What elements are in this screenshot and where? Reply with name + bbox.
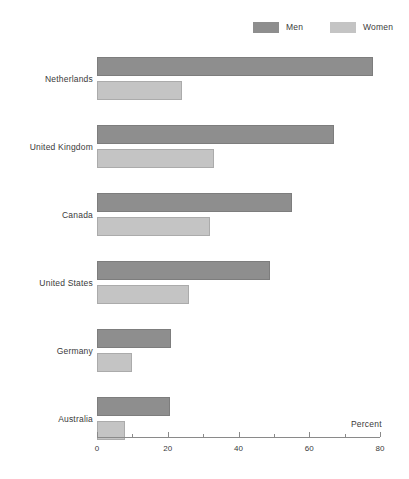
category-group: Netherlands (0, 57, 409, 100)
bar-women (97, 285, 189, 304)
category-group: Canada (0, 193, 409, 236)
category-group: United Kingdom (0, 125, 409, 168)
bar-women (97, 421, 125, 440)
bar-men (97, 193, 292, 212)
category-label: Australia (0, 414, 93, 424)
bar-women (97, 81, 182, 100)
bar-chart: Men Women NetherlandsUnited KingdomCanad… (0, 0, 409, 479)
category-label: Netherlands (0, 74, 93, 84)
category-group: Australia (0, 397, 409, 440)
bar-women (97, 149, 214, 168)
bar-men (97, 125, 334, 144)
bar-women (97, 217, 210, 236)
bar-men (97, 261, 270, 280)
category-label: United Kingdom (0, 142, 93, 152)
category-label: Germany (0, 346, 93, 356)
bar-men (97, 329, 171, 348)
category-group: Germany (0, 329, 409, 372)
category-label: Canada (0, 210, 93, 220)
bar-men (97, 397, 170, 416)
plot-area: NetherlandsUnited KingdomCanadaUnited St… (0, 0, 409, 479)
category-label: United States (0, 278, 93, 288)
bar-men (97, 57, 373, 76)
bar-women (97, 353, 132, 372)
category-group: United States (0, 261, 409, 304)
